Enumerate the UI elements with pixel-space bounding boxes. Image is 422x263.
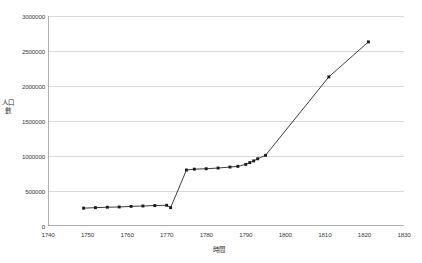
x-axis-title: 時間 — [0, 245, 422, 254]
x-tick-label: 1770 — [160, 231, 173, 238]
y-tick-label: 2500000 — [22, 48, 45, 55]
x-tick-label: 1750 — [81, 231, 94, 238]
x-tick-label: 1810 — [318, 231, 331, 238]
y-tick-label: 1500000 — [22, 118, 45, 125]
x-tick-label: 1740 — [41, 231, 54, 238]
y-tick-label: 2000000 — [22, 83, 45, 90]
x-tick-label: 1780 — [200, 231, 213, 238]
y-axis-tick-labels: 0500000100000015000002000000250000030000… — [0, 0, 45, 242]
y-axis-title: 人口數 — [2, 99, 14, 114]
x-tick-label: 1760 — [121, 231, 134, 238]
y-tick-label: 3000000 — [22, 13, 45, 20]
y-tick-label: 500000 — [25, 188, 45, 195]
x-tick-label: 1820 — [358, 231, 371, 238]
x-tick-label: 1800 — [279, 231, 292, 238]
x-tick-label: 1790 — [239, 231, 252, 238]
x-axis-tick-labels: 1740175017601770178017901800181018201830 — [0, 231, 422, 245]
data-series-population — [48, 16, 404, 226]
y-tick-label: 1000000 — [22, 153, 45, 160]
x-tick-label: 1830 — [397, 231, 410, 238]
population-line-chart: 0500000100000015000002000000250000030000… — [0, 0, 422, 263]
y-tick-label: 0 — [42, 223, 45, 230]
plot-area — [48, 16, 404, 226]
x-axis-title-text: 時間 — [213, 246, 225, 253]
